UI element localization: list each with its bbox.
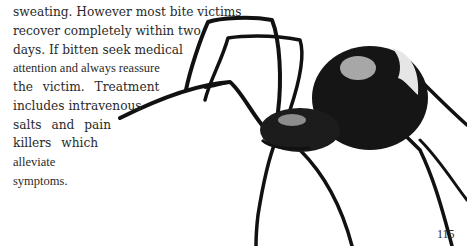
page-number: 115 <box>437 227 455 242</box>
text-line: days. If bitten seek medical <box>13 43 183 57</box>
book-page: sweating. However most bite victims reco… <box>0 0 467 246</box>
text-line: alleviate <box>13 155 55 169</box>
text-line: includes intravenous <box>13 99 142 113</box>
text-line: killers which <box>13 136 98 150</box>
text-line: attention and always reassure <box>13 61 160 75</box>
text-line: sweating. However most bite victims <box>13 5 242 19</box>
text-line: the victim. Treatment <box>13 80 159 94</box>
text-line: salts and pain <box>13 118 111 132</box>
text-line: recover completely within two <box>13 24 201 38</box>
text-line: symptoms. <box>13 174 68 188</box>
